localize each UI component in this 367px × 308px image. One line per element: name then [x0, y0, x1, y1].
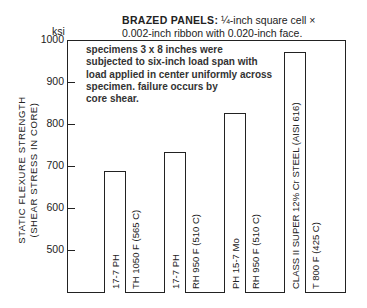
y-axis-title-line1: STATIC FLEXURE STRENGTH: [16, 70, 28, 270]
bar-label-inside: 17-7 PH: [170, 254, 181, 289]
bar-label-inside: 17-7 PH: [110, 254, 121, 289]
annotation-line: specimens 3 x 8 inches were: [86, 44, 276, 56]
annotation-line: load applied in center uniformly across: [86, 69, 276, 81]
y-axis-title: STATIC FLEXURE STRENGTH (SHEAR STRESS IN…: [16, 70, 40, 270]
title-bold: BRAZED PANELS:: [122, 14, 218, 26]
y-tick-mark: [67, 208, 75, 209]
annotation-line: core shear.: [86, 93, 276, 105]
title-rest: ¼-inch square cell ×: [221, 14, 315, 26]
y-tick-mark: [67, 250, 75, 251]
annotation-line: specimen. failure occurs by: [86, 81, 276, 93]
bar-label-outside: RH 950 F (510 C): [190, 214, 201, 289]
y-tick-mark: [67, 166, 75, 167]
y-axis-title-line2: (SHEAR STRESS IN CORE): [28, 70, 40, 270]
bar-label-outside: TH 1050 F (565 C): [130, 210, 141, 289]
annotation-line: subjected to six-inch load span with: [86, 56, 276, 68]
chart-title-line1: BRAZED PANELS: ¼-inch square cell ×: [122, 14, 315, 26]
bar-label-outside: T 800 F (425 C): [310, 222, 321, 289]
y-tick-mark: [67, 82, 75, 83]
bar-label-outside: RH 950 F (510 C): [250, 214, 261, 289]
chart-title-line2: 0.002-inch ribbon with 0.020-inch face.: [122, 27, 302, 39]
annotation-note: specimens 3 x 8 inches weresubjected to …: [86, 44, 276, 105]
y-tick-mark: [67, 124, 75, 125]
y-tick-label: 1000: [32, 33, 64, 45]
bar-label-inside: CLASS II SUPER 12% Cr STEEL (AISI 616): [290, 102, 301, 289]
bar-label-inside: PH 15-7 Mo: [230, 238, 241, 289]
